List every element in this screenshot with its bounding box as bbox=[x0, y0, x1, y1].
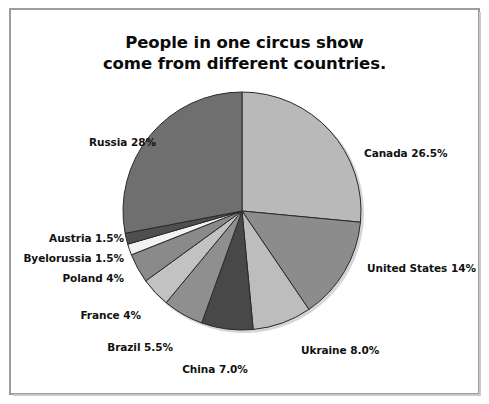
pie-slice-group bbox=[123, 92, 361, 330]
pie-label-united-states: United States 14% bbox=[367, 262, 476, 274]
pie-label-china: China 7.0% bbox=[182, 363, 248, 375]
chart-page: People in one circus show come from diff… bbox=[0, 0, 489, 404]
pie-slice-russia[interactable] bbox=[123, 92, 242, 233]
pie-label-brazil: Brazil 5.5% bbox=[107, 341, 173, 353]
pie-label-russia: Russia 28% bbox=[89, 136, 156, 148]
pie-label-canada: Canada 26.5% bbox=[364, 147, 447, 159]
pie-chart bbox=[0, 0, 489, 404]
pie-label-france: France 4% bbox=[80, 309, 141, 321]
pie-label-poland: Poland 4% bbox=[62, 272, 124, 284]
pie-slice-canada[interactable] bbox=[242, 92, 361, 222]
pie-label-austria: Austria 1.5% bbox=[49, 232, 124, 244]
pie-label-ukraine: Ukraine 8.0% bbox=[301, 344, 379, 356]
pie-label-byelorussia: Byelorussia 1.5% bbox=[23, 252, 124, 264]
